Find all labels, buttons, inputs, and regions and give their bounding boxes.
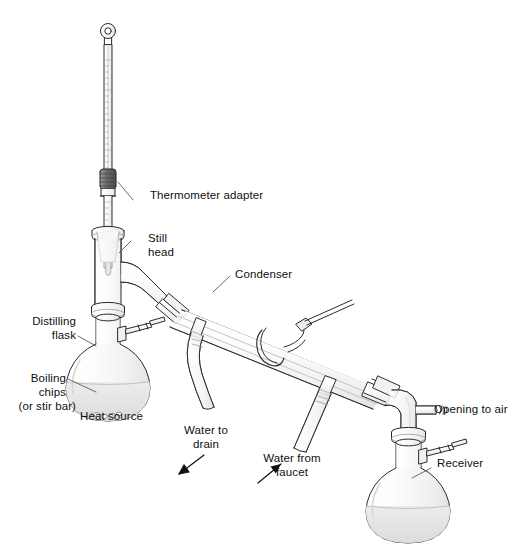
- leader-thermometer-adapter: [118, 182, 133, 200]
- water-to-drain-arrow: [179, 455, 204, 474]
- label-water-to-drain-line2: drain: [165, 438, 247, 452]
- distilling-flask-part: [66, 314, 165, 421]
- inlet-hose-part: [294, 390, 331, 452]
- label-still-head-line2: head: [148, 246, 174, 260]
- label-still-head-line1: Still: [148, 232, 167, 246]
- label-condenser: Condenser: [235, 268, 292, 282]
- label-boiling-chips-line1: Boiling: [0, 372, 66, 386]
- label-boiling-chips-line2: chips: [0, 386, 66, 400]
- label-distilling-flask-line1: Distilling: [0, 315, 76, 329]
- label-boiling-chips-line3: (or stir bar): [0, 400, 76, 414]
- label-heat-source: Heat source: [80, 410, 143, 424]
- receiver-flask-part: [366, 439, 467, 543]
- leader-distilling-flask: [78, 336, 96, 346]
- label-thermometer-adapter: Thermometer adapter: [150, 189, 263, 203]
- label-distilling-flask-line2: flask: [0, 329, 76, 343]
- label-water-from-faucet-line1: Water from: [248, 452, 336, 466]
- leader-condenser: [213, 276, 230, 292]
- thermometer-adapter-part: [100, 169, 116, 196]
- drain-hose-part: [187, 333, 214, 409]
- label-opening-to-air: Opening to air: [434, 403, 508, 417]
- label-water-from-faucet-line2: faucet: [248, 466, 336, 480]
- thermometer: [101, 24, 116, 173]
- clamp-flask: [118, 317, 165, 342]
- label-receiver: Receiver: [437, 457, 483, 471]
- label-water-to-drain-line1: Water to: [165, 424, 247, 438]
